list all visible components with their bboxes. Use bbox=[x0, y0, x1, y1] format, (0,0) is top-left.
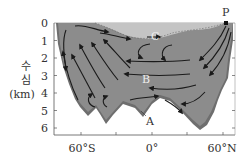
y-tick-6: 6 bbox=[41, 122, 48, 135]
water-mass-a-label: A bbox=[145, 115, 155, 128]
ocean-circulation-diagram: P C B A 0 1 2 3 4 5 6 수 심 (km) 60°S 0° 6… bbox=[0, 0, 250, 160]
y-axis-label-line2: 심 bbox=[21, 74, 31, 87]
y-tick-4: 4 bbox=[41, 87, 48, 100]
y-tick-0: 0 bbox=[41, 17, 48, 30]
x-tick-60s: 60°S bbox=[68, 142, 95, 155]
point-p-label: P bbox=[222, 6, 230, 19]
water-mass-b-label: B bbox=[142, 73, 150, 86]
point-p-marker bbox=[224, 21, 228, 25]
y-tick-2: 2 bbox=[41, 52, 48, 65]
y-tick-3: 3 bbox=[41, 70, 48, 83]
water-mass-c-label: C bbox=[151, 30, 159, 43]
y-tick-5: 5 bbox=[41, 105, 48, 118]
x-tick-60n: 60°N bbox=[207, 142, 236, 155]
y-axis-label-line1: 수 bbox=[21, 60, 31, 73]
y-axis-unit: (km) bbox=[9, 88, 35, 101]
y-tick-1: 1 bbox=[41, 35, 48, 48]
x-tick-0: 0° bbox=[146, 142, 159, 155]
